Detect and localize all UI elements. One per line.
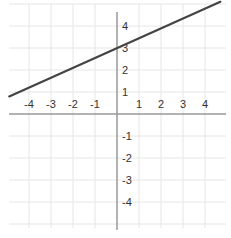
x-tick-label: -2: [68, 98, 78, 110]
y-tick-label: -2: [122, 152, 132, 164]
y-tick-label: -4: [122, 196, 132, 208]
x-tick-label: 4: [202, 98, 208, 110]
data-line: [9, 2, 220, 97]
axes: [9, 12, 226, 230]
y-tick-label: 2: [122, 64, 128, 76]
x-tick-label: 3: [180, 98, 186, 110]
x-tick-label: -1: [90, 98, 100, 110]
x-tick-label: -3: [46, 98, 56, 110]
y-tick-label: 4: [122, 20, 128, 32]
coordinate-plane: -4-3-2-112344321-1-2-3-4: [0, 0, 231, 238]
x-tick-label: 2: [158, 98, 164, 110]
y-tick-label: -1: [122, 130, 132, 142]
y-tick-label: 1: [122, 86, 128, 98]
x-tick-label: 1: [136, 98, 142, 110]
plot-line: [9, 2, 220, 97]
x-tick-label: -4: [24, 98, 34, 110]
y-tick-label: -3: [122, 174, 132, 186]
